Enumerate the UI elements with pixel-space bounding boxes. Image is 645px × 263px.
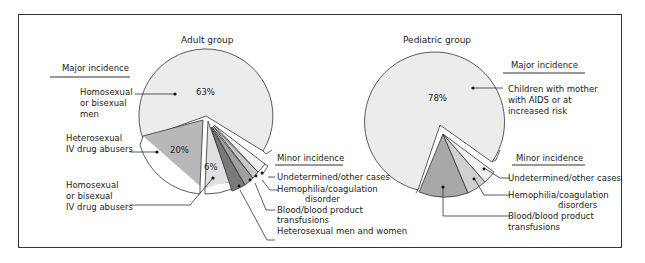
- adult-label-ivdu-1: Heterosexual: [66, 133, 122, 143]
- adult-title: Adult group: [181, 35, 233, 45]
- pediatric-major-heading: Major incidence: [511, 60, 578, 70]
- adult-major-heading: Major incidence: [62, 63, 129, 73]
- pediatric-label-blood-2: transfusions: [508, 222, 560, 232]
- pediatric-label-blood-1: Blood/blood product: [508, 211, 594, 221]
- pediatric-label-undetermined: Undetermined/other cases: [508, 173, 621, 183]
- pediatric-minor-heading: Minor incidence: [516, 153, 583, 163]
- adult-label-hemophilia-2: disorder: [305, 194, 340, 204]
- adult-minor-heading: Minor incidence: [277, 153, 344, 163]
- adult-slice-63-rim: [263, 150, 272, 154]
- adult-pct-6: 6%: [204, 162, 218, 172]
- adult-label-ivdu-2: IV drug abusers: [66, 144, 133, 154]
- pediatric-title: Pediatric group: [403, 35, 471, 45]
- adult-label-hetero: Heterosexual men and women: [277, 226, 407, 236]
- adult-label-homo-men-3: men: [80, 109, 99, 119]
- pediatric-label-hemophilia-2: disorders: [558, 200, 597, 210]
- figure: Adult group Major incidence Homosexual o…: [0, 0, 645, 263]
- adult-label-blood-2: transfusions: [277, 215, 329, 225]
- pediatric-label-mother-1: Children with mother: [508, 84, 598, 94]
- adult-label-homo-men-2: or bisexual: [80, 98, 127, 108]
- pediatric-label-mother-3: increased risk: [508, 106, 567, 116]
- adult-label-undetermined: Undetermined/other cases: [277, 172, 390, 182]
- adult-pct-63: 63%: [196, 87, 215, 97]
- pediatric-pct-78: 78%: [428, 93, 447, 103]
- adult-label-homo-ivdu-1: Homosexual: [66, 180, 119, 190]
- adult-label-homo-ivdu-2: or bisexual: [66, 191, 113, 201]
- adult-label-blood-1: Blood/blood product: [277, 205, 363, 215]
- adult-label-hemophilia-1: Hemophilia/coagulation: [277, 184, 378, 194]
- pediatric-label-mother-2: with AIDS or at: [508, 95, 572, 105]
- pediatric-label-hemophilia-1: Hemophilia/coagulation: [508, 190, 609, 200]
- adult-label-homo-men-1: Homosexual: [80, 87, 133, 97]
- adult-pct-20: 20%: [170, 145, 189, 155]
- adult-label-homo-ivdu-3: IV drug abusers: [66, 202, 133, 212]
